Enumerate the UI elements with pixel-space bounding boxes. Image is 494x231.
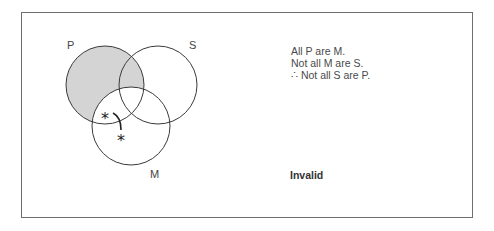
verdict-label: Invalid [290, 169, 323, 181]
argument-text: All P are M. Not all M are S. ∴ Not all … [291, 45, 370, 81]
conclusion: ∴ Not all S are P. [291, 69, 370, 81]
shaded-region-p-not-m [0, 0, 494, 231]
label-m: M [150, 169, 159, 180]
label-s: S [189, 40, 196, 51]
premise-2: Not all M are S. [291, 57, 370, 69]
label-p: P [67, 40, 74, 51]
premise-1: All P are M. [291, 45, 370, 57]
asterisk-mark-2: * [117, 131, 125, 150]
asterisk-mark-1: * [101, 109, 109, 128]
venn-diagram: * * [0, 0, 494, 231]
